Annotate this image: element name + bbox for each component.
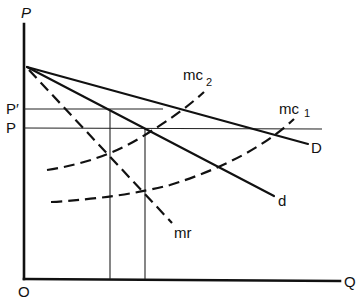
price-line-p (24, 128, 322, 129)
x-axis (24, 279, 340, 281)
demand-label-d: d (278, 192, 286, 209)
y-axis-label: P (21, 4, 31, 21)
marginal-revenue-curve (29, 70, 172, 223)
price-label-p-prime: P′ (6, 100, 19, 117)
origin-label: O (18, 283, 30, 300)
demand-curve-D (27, 67, 308, 144)
marginal-revenue-label: mr (174, 224, 192, 241)
price-label-p: P (6, 119, 16, 136)
economics-diagram: P Q O P′ P D d mr mc 2 mc 1 (0, 0, 363, 303)
x-axis-label: Q (344, 273, 356, 290)
marginal-cost-curve-2 (47, 92, 204, 170)
marginal-cost-subscript-1: 1 (304, 107, 310, 119)
marginal-cost-label-1: mc (279, 100, 299, 117)
marginal-cost-label-2: mc (183, 66, 203, 83)
marginal-cost-subscript-2: 2 (206, 76, 212, 88)
demand-label-D: D (311, 139, 322, 156)
